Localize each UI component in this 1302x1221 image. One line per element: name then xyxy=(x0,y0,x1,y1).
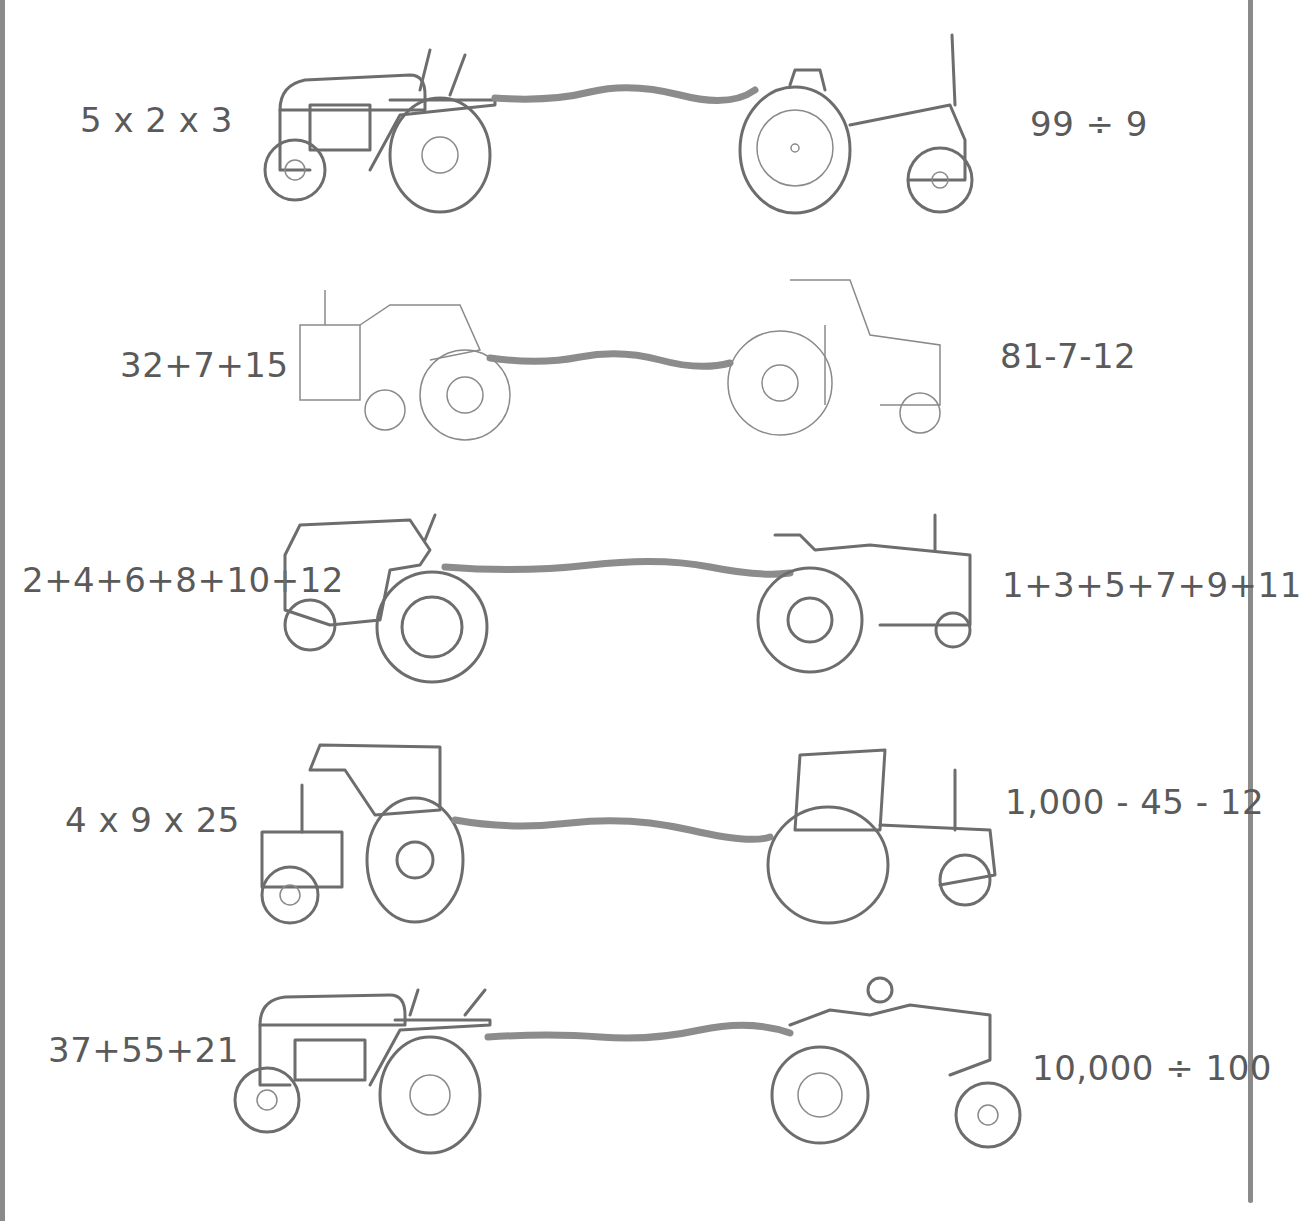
tractor-icon xyxy=(758,515,970,672)
right-expression: 99 ÷ 9 xyxy=(1030,104,1148,144)
tractor-pair-icon xyxy=(270,505,980,695)
tractor-pair-icon xyxy=(230,975,1030,1175)
right-expression: 1+3+5+7+9+11 xyxy=(1002,565,1302,605)
tractor-pair-icon xyxy=(250,30,1010,220)
tractor-icon xyxy=(728,280,940,435)
tractor-icon xyxy=(235,990,490,1153)
right-expression: 81-7-12 xyxy=(1000,336,1136,376)
page-border-left xyxy=(0,0,5,1221)
tractor-icon xyxy=(285,515,487,682)
tractor-icon xyxy=(262,745,463,923)
left-expression: 4 x 9 x 25 xyxy=(65,800,240,840)
tractor-icon xyxy=(265,50,495,212)
right-expression: 1,000 - 45 - 12 xyxy=(1005,782,1264,822)
left-expression: 32+7+15 xyxy=(120,345,289,385)
right-expression: 10,000 ÷ 100 xyxy=(1032,1048,1272,1088)
tractor-icon xyxy=(768,750,995,923)
tractor-icon xyxy=(740,35,972,213)
left-expression: 5 x 2 x 3 xyxy=(80,100,233,140)
left-expression: 37+55+21 xyxy=(48,1030,239,1070)
tractor-icon xyxy=(300,290,510,440)
tractor-pair-icon xyxy=(250,735,1010,935)
tractor-pair-icon xyxy=(280,265,980,455)
tractor-icon xyxy=(772,978,1020,1147)
